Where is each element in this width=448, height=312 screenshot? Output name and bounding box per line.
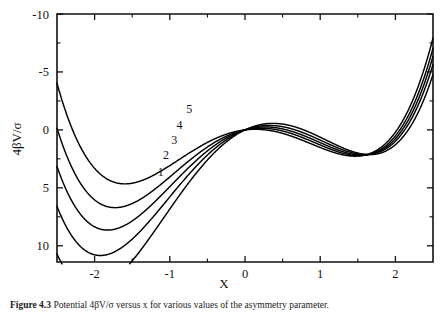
- y-tick-label: 10: [37, 239, 50, 253]
- curve-label-group: 54321: [158, 102, 193, 179]
- y-tick-label: -5: [39, 65, 49, 79]
- curve-group: [57, 38, 433, 264]
- potential-curve-3: [57, 56, 433, 230]
- plot-frame: [57, 14, 433, 262]
- potential-curve-4: [57, 48, 433, 207]
- potential-curve-2: [57, 64, 433, 255]
- curve-label-1: 1: [158, 165, 164, 179]
- figure-caption: Figure 4.3 Potential 4βV/σ versus x for …: [10, 300, 440, 312]
- potential-curve-5: [57, 38, 433, 184]
- x-axis-title: X: [0, 276, 448, 292]
- curve-label-3: 3: [171, 133, 177, 147]
- y-tick-label: 0: [43, 123, 49, 137]
- curve-label-4: 4: [177, 118, 183, 132]
- y-tick-label: 5: [43, 181, 49, 195]
- curve-label-5: 5: [186, 102, 192, 116]
- caption-text: Potential 4βV/σ versus x for various val…: [53, 300, 329, 310]
- y-axis-title-wrap: 4βV/σ: [3, 104, 29, 174]
- curve-label-2: 2: [163, 148, 169, 162]
- y-axis-title: 4βV/σ: [10, 122, 23, 155]
- y-tick-label: -10: [32, 8, 49, 22]
- axis-ticks: [57, 14, 433, 262]
- potential-curve-1: [130, 74, 433, 263]
- caption-label: Figure 4.3: [10, 300, 51, 310]
